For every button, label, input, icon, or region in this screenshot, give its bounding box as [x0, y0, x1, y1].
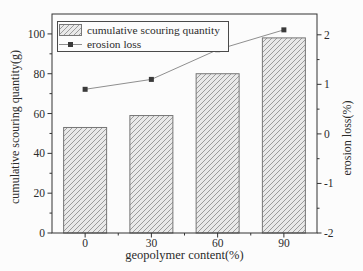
legend: cumulative scouring quantity erosion los…	[57, 21, 229, 52]
x-axis-title: geopolymer content(%)	[52, 247, 317, 263]
marker-30	[149, 77, 154, 82]
hatched-bar-swatch-icon	[59, 24, 82, 36]
bar-0	[64, 127, 107, 233]
chart-figure: 020406080100-2-10120306090 cumulative sc…	[0, 0, 363, 271]
left-tick-label: 0	[39, 227, 45, 239]
legend-label-cumulative-scouring: cumulative scouring quantity	[87, 23, 220, 37]
right-tick-label: 0	[324, 128, 330, 140]
right-tick-label: 2	[324, 29, 330, 41]
left-axis-title: cumulative scouring quantity(g)	[7, 7, 23, 247]
left-tick-label: 40	[34, 147, 46, 159]
left-tick-label: 100	[28, 28, 46, 40]
legend-label-erosion-loss: erosion loss	[87, 37, 141, 51]
line-marker-icon	[59, 42, 82, 47]
right-axis-title: erosion loss(%)	[339, 18, 355, 258]
left-tick-label: 60	[34, 108, 46, 120]
marker-90	[281, 27, 286, 32]
right-tick-label: -1	[324, 177, 334, 189]
legend-item-erosion-loss: erosion loss	[59, 37, 226, 51]
right-tick-label: 1	[324, 78, 330, 90]
bar-60	[196, 74, 239, 233]
bar-90	[262, 38, 305, 233]
bars-cumulative-scouring	[64, 38, 306, 233]
legend-item-cumulative-scouring: cumulative scouring quantity	[59, 23, 226, 37]
bar-30	[130, 116, 173, 233]
right-tick-label: -2	[324, 227, 334, 239]
left-tick-label: 80	[34, 68, 46, 80]
left-tick-label: 20	[34, 187, 46, 199]
marker-0	[83, 87, 88, 92]
